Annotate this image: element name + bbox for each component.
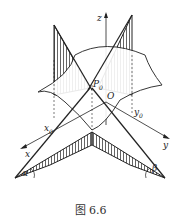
p0-sub: 0	[99, 84, 103, 91]
x0-sub: 0	[49, 128, 53, 135]
figure-caption: 图 6.6	[0, 201, 181, 217]
y-axis-label: y	[163, 141, 168, 150]
y0-sub: 0	[139, 112, 143, 119]
x-axis-label: x	[25, 150, 30, 159]
x0-label: x0	[44, 124, 53, 135]
p0-label: P0	[93, 80, 103, 91]
y0-label: y0	[134, 108, 143, 119]
beta-label: β	[152, 164, 157, 173]
z-axis-label: z	[97, 14, 102, 23]
alpha-label: α	[22, 169, 28, 178]
saddle-diagram	[0, 0, 181, 223]
origin-label: O	[107, 92, 114, 101]
